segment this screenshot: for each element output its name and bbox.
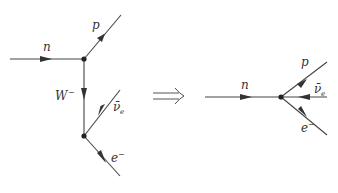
feynman-diagram: n p W − ν̄ e e − n p ν̄ e e − (0, 0, 338, 193)
label-antineutrino-sub: e (321, 90, 325, 98)
w-boson-arrow-icon (81, 88, 87, 100)
contact-vertex (278, 94, 283, 99)
label-neutron: n (43, 40, 51, 54)
neutron-arrow-icon (240, 94, 252, 100)
lower-vertex (81, 133, 86, 138)
upper-vertex (81, 56, 86, 61)
label-w-charge: − (68, 88, 75, 97)
label-antineutrino-sub: e (120, 108, 124, 116)
label-electron-charge: − (308, 120, 315, 129)
label-w-boson: W (55, 89, 69, 103)
implies-arrow-icon (153, 88, 184, 104)
label-proton: p (301, 55, 309, 69)
label-neutron: n (241, 78, 249, 92)
label-proton: p (92, 18, 100, 32)
neutron-arrow-icon (40, 56, 52, 62)
label-electron-charge: − (118, 150, 125, 159)
antineutrino-arrow-icon (298, 94, 310, 100)
proton-arrow-icon (97, 34, 105, 43)
